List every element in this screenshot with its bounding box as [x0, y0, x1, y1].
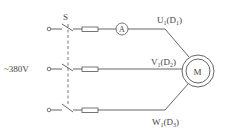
fuse-v [82, 67, 98, 72]
terminal-label-u1-d1: U1(D1) [157, 15, 182, 26]
input-terminal-v [47, 67, 51, 71]
motor-label: M [194, 67, 202, 77]
fuse-w [82, 108, 98, 113]
phase-u-line: A [47, 23, 189, 57]
terminal-label-w1-d3: W1(D3) [152, 117, 179, 128]
terminal-label-v1-d2: V1(D2) [151, 57, 176, 68]
input-terminal-w [47, 108, 51, 112]
motor: M [182, 55, 214, 87]
switch-blade-u [62, 24, 73, 31]
switch-blade-w [62, 104, 73, 112]
switch-label: S [63, 12, 68, 22]
switch-blade-v [62, 64, 73, 71]
supply-voltage-label: ~380V [4, 64, 29, 74]
ammeter-label: A [119, 25, 125, 34]
motor-circuit-diagram: S ~380V A M U [0, 0, 228, 136]
fuse-u [82, 27, 98, 32]
input-terminal-u [47, 27, 51, 31]
